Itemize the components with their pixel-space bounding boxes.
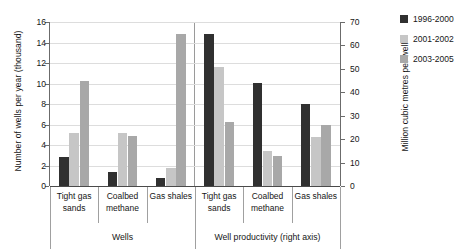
y-tick-label-right: 40 [350, 88, 372, 97]
y-tick-label-left: 8 [24, 100, 46, 109]
gridline [50, 22, 340, 23]
legend-swatch-icon [400, 35, 408, 43]
category-separator [147, 187, 148, 223]
y-tick-label-right: 20 [350, 135, 372, 144]
legend-label: 2001-2002 [413, 34, 454, 44]
y-tick-label-left: 4 [24, 141, 46, 150]
y-tick-label-right: 0 [350, 182, 372, 191]
category-label-tight-gas-sands: Tight gas sands [195, 187, 243, 223]
bar-wells-coalbed-methane-2003-2005 [128, 136, 138, 186]
gridline [50, 125, 340, 126]
y-tick-label-right: 10 [350, 159, 372, 168]
panel-label-well-productivity: Well productivity (right axis) [195, 223, 340, 252]
legend-swatch-icon [400, 15, 408, 23]
y-tick-label-right: 50 [350, 65, 372, 74]
gridline [50, 104, 340, 105]
y-tick-label-left: 2 [24, 162, 46, 171]
y-tick-label-right: 60 [350, 41, 372, 50]
bar-well-productivity-coalbed-methane-1996-2000 [253, 83, 263, 186]
bar-wells-tight-gas-sands-2003-2005 [80, 81, 90, 186]
y-tick-mark-right [341, 45, 345, 46]
category-label-coalbed-methane: Coalbed methane [98, 187, 146, 223]
panel-label-wells: Wells [50, 223, 195, 252]
gridline [50, 145, 340, 146]
category-label-coalbed-methane: Coalbed methane [243, 187, 291, 223]
y-tick-mark-right [341, 116, 345, 117]
y-tick-label-left: 14 [24, 39, 46, 48]
bar-well-productivity-coalbed-methane-2003-2005 [273, 156, 283, 186]
y-tick-label-left: 12 [24, 59, 46, 68]
category-label-tight-gas-sands: Tight gas sands [50, 187, 98, 223]
panel-label-band: WellsWell productivity (right axis) [50, 223, 340, 252]
bar-wells-gas-shales-2003-2005 [176, 34, 186, 186]
category-label-gas-shales: Gas shales [147, 187, 195, 223]
bar-well-productivity-coalbed-methane-2001-2002 [263, 151, 273, 186]
y-tick-label-right: 30 [350, 112, 372, 121]
bar-well-productivity-tight-gas-sands-2003-2005 [225, 122, 235, 186]
bar-wells-coalbed-methane-2001-2002 [118, 133, 128, 186]
legend-label: 1996-2000 [413, 14, 454, 24]
right-axis-line [340, 22, 341, 186]
y-tick-mark-right [341, 92, 345, 93]
legend: 1996-20002001-20022003-2005 [400, 14, 454, 74]
y-tick-label-left: 6 [24, 121, 46, 130]
plot-area: 0246810121416010203040506070 [50, 22, 340, 186]
bar-wells-coalbed-methane-1996-2000 [108, 172, 118, 186]
y-tick-label-left: 16 [24, 18, 46, 27]
y-tick-mark-right [341, 163, 345, 164]
panel-separator [195, 187, 196, 249]
y-tick-label-right: 70 [350, 18, 372, 27]
y-tick-mark-right [341, 22, 345, 23]
category-separator [98, 187, 99, 223]
gridline [50, 43, 340, 44]
y-tick-mark-right [341, 186, 345, 187]
bar-wells-gas-shales-1996-2000 [156, 178, 166, 186]
gridline [50, 166, 340, 167]
legend-label: 2003-2005 [413, 54, 454, 64]
bar-chart: Number of wells per year (thousand) Mill… [0, 0, 467, 252]
bar-well-productivity-gas-shales-2001-2002 [311, 137, 321, 186]
y-tick-mark-right [341, 69, 345, 70]
panel-separator [340, 187, 341, 249]
y-tick-label-left: 0 [24, 182, 46, 191]
category-label-gas-shales: Gas shales [292, 187, 340, 223]
bar-well-productivity-gas-shales-1996-2000 [301, 104, 311, 186]
category-separator [292, 187, 293, 223]
y-axis-label-left: Number of wells per year (thousand) [13, 21, 23, 181]
gridline [50, 84, 340, 85]
y-tick-label-left: 10 [24, 80, 46, 89]
bar-well-productivity-tight-gas-sands-2001-2002 [214, 67, 224, 186]
bar-wells-tight-gas-sands-2001-2002 [69, 133, 79, 186]
legend-item-1996-2000[interactable]: 1996-2000 [400, 14, 454, 23]
legend-item-2003-2005[interactable]: 2003-2005 [400, 54, 454, 63]
legend-swatch-icon [400, 55, 408, 63]
bar-well-productivity-tight-gas-sands-1996-2000 [204, 34, 214, 186]
category-separator [243, 187, 244, 223]
bar-wells-gas-shales-2001-2002 [166, 168, 176, 186]
gridline [50, 63, 340, 64]
bar-wells-tight-gas-sands-1996-2000 [59, 157, 69, 186]
y-tick-mark-right [341, 139, 345, 140]
bar-well-productivity-gas-shales-2003-2005 [321, 125, 331, 186]
panel-separator [50, 187, 51, 249]
legend-item-2001-2002[interactable]: 2001-2002 [400, 34, 454, 43]
